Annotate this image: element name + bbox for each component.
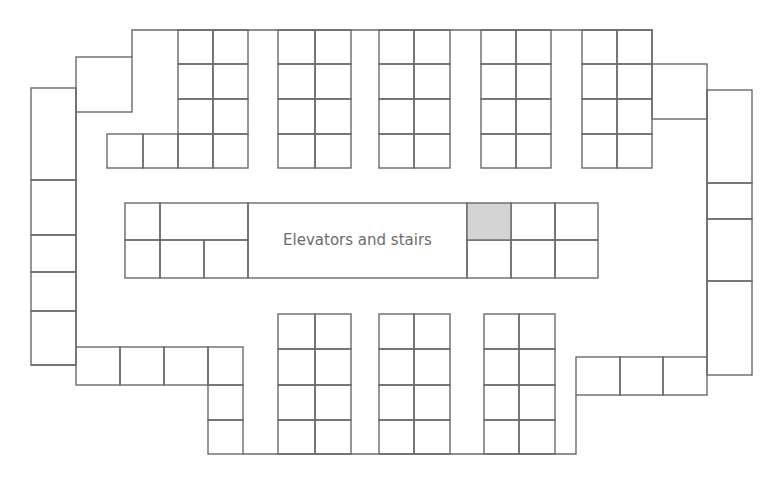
parking-space[interactable] xyxy=(213,99,248,134)
parking-space[interactable] xyxy=(164,347,208,385)
parking-space[interactable] xyxy=(652,64,707,119)
parking-space[interactable] xyxy=(582,64,617,99)
parking-space[interactable] xyxy=(213,64,248,99)
parking-space[interactable] xyxy=(379,99,414,134)
parking-space[interactable] xyxy=(484,385,519,420)
parking-space[interactable] xyxy=(414,314,450,349)
parking-space[interactable] xyxy=(414,420,450,454)
parking-space[interactable] xyxy=(519,420,555,454)
parking-space[interactable] xyxy=(617,30,652,64)
parking-space[interactable] xyxy=(516,64,551,99)
parking-space[interactable] xyxy=(379,349,414,385)
parking-space[interactable] xyxy=(315,134,351,168)
highlighted-space[interactable] xyxy=(467,203,511,240)
wall-segment xyxy=(132,30,652,64)
parking-space[interactable] xyxy=(379,385,414,420)
parking-space[interactable] xyxy=(484,420,519,454)
parking-space[interactable] xyxy=(516,30,551,64)
parking-space[interactable] xyxy=(315,385,351,420)
parking-space[interactable] xyxy=(31,180,76,235)
parking-space[interactable] xyxy=(481,99,516,134)
parking-space[interactable] xyxy=(484,314,519,349)
parking-space[interactable] xyxy=(414,349,450,385)
parking-space[interactable] xyxy=(414,99,450,134)
parking-space[interactable] xyxy=(315,349,351,385)
parking-space[interactable] xyxy=(125,240,160,278)
parking-space[interactable] xyxy=(379,420,414,454)
parking-space[interactable] xyxy=(519,385,555,420)
parking-space[interactable] xyxy=(617,134,652,168)
parking-space[interactable] xyxy=(707,281,752,375)
parking-space[interactable] xyxy=(414,30,450,64)
parking-space[interactable] xyxy=(213,134,248,168)
parking-space[interactable] xyxy=(519,314,555,349)
parking-space[interactable] xyxy=(278,385,315,420)
parking-space[interactable] xyxy=(31,311,76,365)
parking-space[interactable] xyxy=(278,64,315,99)
parking-space[interactable] xyxy=(379,30,414,64)
parking-space[interactable] xyxy=(379,134,414,168)
parking-space[interactable] xyxy=(160,203,248,240)
parking-space[interactable] xyxy=(315,30,351,64)
parking-space[interactable] xyxy=(120,347,164,385)
parking-space[interactable] xyxy=(481,64,516,99)
parking-space[interactable] xyxy=(31,272,76,311)
parking-space[interactable] xyxy=(278,99,315,134)
parking-space[interactable] xyxy=(178,64,213,99)
parking-space[interactable] xyxy=(414,64,450,99)
parking-space[interactable] xyxy=(278,349,315,385)
parking-space[interactable] xyxy=(555,203,598,240)
parking-space[interactable] xyxy=(484,349,519,385)
parking-space[interactable] xyxy=(511,203,555,240)
parking-space[interactable] xyxy=(467,240,511,278)
parking-space[interactable] xyxy=(707,219,752,281)
parking-space[interactable] xyxy=(315,314,351,349)
parking-space[interactable] xyxy=(125,203,160,240)
parking-space[interactable] xyxy=(278,134,315,168)
parking-space[interactable] xyxy=(76,57,132,112)
parking-space[interactable] xyxy=(160,240,204,278)
parking-space[interactable] xyxy=(208,420,243,454)
parking-space[interactable] xyxy=(76,347,120,385)
core-label: Elevators and stairs xyxy=(283,231,432,249)
parking-space[interactable] xyxy=(315,420,351,454)
parking-space[interactable] xyxy=(204,240,248,278)
parking-space[interactable] xyxy=(414,385,450,420)
parking-space[interactable] xyxy=(516,99,551,134)
parking-space[interactable] xyxy=(555,240,598,278)
parking-space[interactable] xyxy=(278,314,315,349)
parking-space[interactable] xyxy=(143,134,178,168)
parking-space[interactable] xyxy=(617,64,652,99)
parking-space[interactable] xyxy=(178,99,213,134)
parking-space[interactable] xyxy=(379,64,414,99)
parking-space[interactable] xyxy=(213,30,248,64)
parking-space[interactable] xyxy=(178,30,213,64)
parking-space[interactable] xyxy=(707,90,752,183)
parking-space[interactable] xyxy=(511,240,555,278)
parking-space[interactable] xyxy=(582,99,617,134)
parking-space[interactable] xyxy=(519,349,555,385)
parking-space[interactable] xyxy=(620,357,663,395)
wall-segment xyxy=(243,395,576,454)
parking-space[interactable] xyxy=(178,134,213,168)
parking-space[interactable] xyxy=(582,134,617,168)
parking-space[interactable] xyxy=(576,357,620,395)
parking-space[interactable] xyxy=(208,385,243,420)
parking-space[interactable] xyxy=(516,134,551,168)
parking-space[interactable] xyxy=(481,134,516,168)
parking-space[interactable] xyxy=(315,99,351,134)
parking-space[interactable] xyxy=(31,235,76,272)
parking-space[interactable] xyxy=(414,134,450,168)
parking-space[interactable] xyxy=(315,64,351,99)
parking-space[interactable] xyxy=(663,357,707,395)
parking-space[interactable] xyxy=(582,30,617,64)
parking-space[interactable] xyxy=(278,420,315,454)
parking-space[interactable] xyxy=(379,314,414,349)
parking-space[interactable] xyxy=(707,183,752,219)
parking-space[interactable] xyxy=(31,88,76,180)
parking-space[interactable] xyxy=(107,134,143,168)
parking-space[interactable] xyxy=(278,30,315,64)
parking-space[interactable] xyxy=(617,99,652,134)
parking-space[interactable] xyxy=(481,30,516,64)
parking-space[interactable] xyxy=(208,347,243,385)
